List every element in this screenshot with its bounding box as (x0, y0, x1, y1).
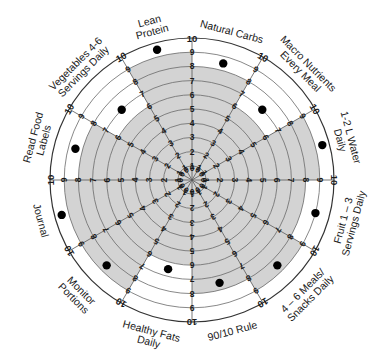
tick-label: 10 (308, 244, 323, 259)
tick-label: 10 (308, 102, 323, 117)
tick-label: 9 (190, 47, 195, 57)
marker-dot (153, 45, 161, 53)
marker-dot (258, 106, 266, 114)
tick-label: 3 (230, 178, 240, 183)
marker-dot (215, 279, 223, 287)
category-label: Read FoodLabels (20, 110, 53, 163)
marker-dot (102, 261, 110, 269)
tick-label: 10 (62, 102, 77, 117)
tick-label: 10 (187, 33, 198, 44)
marker-dot (311, 209, 319, 217)
marker-dot (57, 211, 65, 219)
tick-label: 5 (116, 177, 126, 182)
category-label-line: Natural Carbs (199, 17, 265, 45)
tick-label: 10 (114, 50, 129, 65)
tick-label: 6 (189, 260, 194, 270)
category-label: Healthy FatsDaily (122, 317, 182, 350)
tick-label: 4 (189, 232, 194, 242)
category-label: Journal (31, 202, 52, 238)
tick-label: 5 (189, 246, 194, 256)
tick-label: 7 (286, 178, 296, 183)
tick-label: 3 (189, 218, 194, 228)
category-label-line: Journal (31, 202, 52, 238)
wheel-chart-svg: 0123456789100123456789100123456789100123… (0, 0, 385, 360)
marker-dot (318, 141, 326, 149)
tick-label: 7 (190, 76, 195, 86)
marker-dot (273, 261, 281, 269)
marker-dot (71, 145, 79, 153)
tick-label: 10 (114, 296, 129, 311)
tick-label: 8 (73, 177, 83, 182)
marker-dot (164, 265, 172, 273)
tick-label: 9 (76, 111, 87, 120)
tick-label: 8 (190, 61, 195, 71)
tick-label: 10 (45, 175, 56, 186)
tick-label: 10 (187, 317, 198, 328)
tick-label: 6 (190, 90, 195, 100)
tick-label: 8 (189, 289, 194, 299)
tick-label: 3 (190, 132, 195, 142)
tick-label: 1 (201, 178, 211, 183)
category-label: Fruit 1 – 3Servings Daily (331, 189, 368, 258)
tick-label: 6 (272, 178, 282, 183)
tick-label: 2 (159, 177, 169, 182)
tick-label: 4 (130, 177, 140, 182)
tick-label: 9 (189, 303, 194, 313)
tick-label: 1 (190, 161, 195, 171)
tick-label: 5 (258, 178, 268, 183)
tick-label: 10 (256, 296, 271, 311)
tick-label: 9 (59, 177, 69, 182)
tick-label: 1 (189, 189, 194, 199)
marker-dot (219, 59, 227, 67)
tick-label: 6 (102, 177, 112, 182)
tick-label: 1 (173, 177, 183, 182)
category-label: Natural Carbs (199, 17, 265, 45)
category-label: Macro NutrientsEvery Meal (278, 33, 339, 94)
tick-label: 10 (62, 244, 77, 259)
tick-label: 3 (144, 177, 154, 182)
category-label: 4 – 6 Meals/Snacks Daily (278, 266, 336, 324)
tick-label: 8 (301, 178, 311, 183)
tick-label: 9 (315, 178, 325, 183)
tick-label: 7 (88, 177, 98, 182)
category-label: MonitorPortions (56, 274, 99, 316)
category-label: 1-2 L WaterDaily (332, 110, 364, 166)
tick-label: 2 (189, 203, 194, 213)
marker-dot (118, 106, 126, 114)
tick-label: 5 (190, 104, 195, 114)
category-label: 90/10 Rule (206, 318, 258, 343)
category-label-line: 90/10 Rule (206, 318, 258, 343)
tick-label: 2 (215, 178, 225, 183)
wheel-chart: 0123456789100123456789100123456789100123… (0, 0, 385, 360)
category-label: LeanProtein (135, 12, 170, 42)
tick-label: 7 (189, 274, 194, 284)
tick-label: 9 (251, 64, 260, 75)
tick-label: 4 (190, 118, 195, 128)
tick-label: 10 (256, 50, 271, 65)
tick-label: 10 (329, 175, 340, 186)
tick-label: 2 (190, 147, 195, 157)
tick-label: 4 (244, 178, 254, 183)
